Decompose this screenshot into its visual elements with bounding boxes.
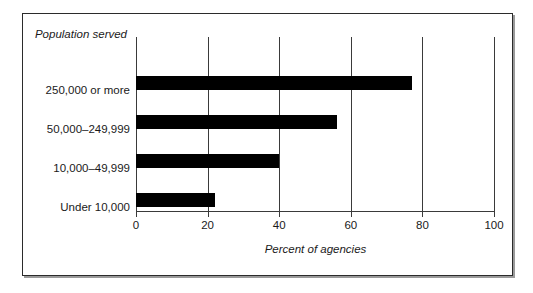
category-label-1: 50,000–249,999 [26,123,130,135]
tick-label-20: 20 [201,219,214,231]
x-axis-title: Percent of agencies [136,243,495,255]
x-axis-line [136,211,495,212]
category-label-3: Under 10,000 [26,201,130,213]
plot-area [136,37,494,211]
category-label-0: 250,000 or more [26,84,130,96]
tick-label-100: 100 [484,219,503,231]
category-label-2: 10,000–49,999 [26,162,130,174]
tick-60 [351,211,352,217]
bar-10000-49999 [136,154,279,168]
gridline-60 [351,37,352,211]
tick-40 [279,211,280,217]
tick-20 [208,211,209,217]
category-label-group: 250,000 or more 50,000–249,999 10,000–49… [23,14,130,277]
gridline-100 [494,37,495,211]
gridline-80 [422,37,423,211]
tick-0 [136,211,137,217]
tick-label-0: 0 [133,219,139,231]
bar-50000-249999 [136,115,337,129]
tick-label-60: 60 [344,219,357,231]
tick-100 [494,211,495,217]
tick-label-40: 40 [273,219,286,231]
chart-figure: Population served 250,000 or more 50,000… [22,13,513,276]
tick-label-80: 80 [416,219,429,231]
bar-250000-or-more [136,76,412,90]
bar-under-10000 [136,193,215,207]
tick-80 [422,211,423,217]
